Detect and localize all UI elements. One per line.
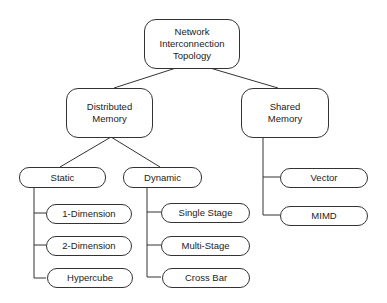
node-dynamic: Dynamic (123, 167, 202, 188)
node-hypercube: Hypercube (47, 268, 133, 288)
node-cross-bar: Cross Bar (162, 268, 250, 288)
node-network-interconnection-topology: Network Interconnection Topology (144, 19, 240, 69)
node-2-dimension: 2-Dimension (46, 236, 132, 256)
node-single-stage: Single Stage (161, 203, 250, 223)
node-1-dimension: 1-Dimension (46, 204, 132, 224)
node-vector: Vector (280, 168, 368, 188)
node-static: Static (19, 167, 106, 188)
node-multi-stage: Multi-Stage (161, 236, 250, 256)
node-distributed-memory: Distributed Memory (66, 88, 153, 138)
node-mimd: MIMD (280, 206, 368, 226)
node-shared-memory: Shared Memory (241, 88, 329, 138)
